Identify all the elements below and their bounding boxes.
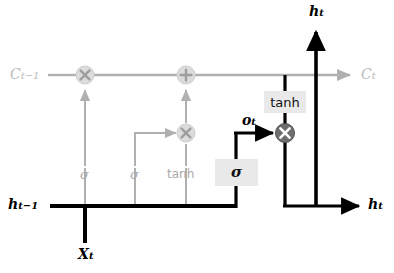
cell-state-output-label: Ct: [361, 67, 376, 81]
input-gate-activation-label: σ: [130, 168, 139, 181]
forget-multiply-node: [76, 66, 94, 84]
hidden-input-label: ht−1: [8, 197, 38, 211]
input-label: Xt: [78, 247, 94, 261]
forget-gate-activation-label: σ: [80, 168, 89, 181]
hidden-output-right-label: ht: [368, 197, 383, 211]
diagram-canvas: [0, 0, 394, 273]
output-gate-activation-box: σ: [215, 159, 258, 186]
add-node: [177, 66, 195, 84]
lstm-diagram: Ct−1 Ct ht−1 ht ht Xt ot σ σ tanh σ tanh: [0, 0, 394, 273]
candidate-activation-label: tanh: [167, 168, 194, 180]
output-multiply-node: [276, 124, 295, 143]
input-multiply-node: [177, 124, 195, 142]
cell-state-input-label: Ct−1: [10, 67, 39, 81]
cell-tanh-activation-box: tanh: [264, 91, 306, 113]
output-gate-label: ot: [242, 113, 256, 127]
hidden-output-top-label: ht: [309, 4, 324, 18]
